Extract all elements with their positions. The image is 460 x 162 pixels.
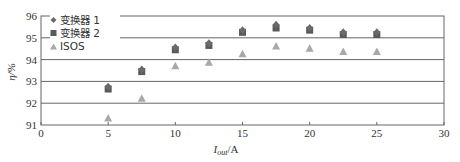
x-axis-label: Iout/A (213, 143, 239, 157)
x-tick-label: 25 (371, 127, 383, 139)
legend-square-icon (51, 30, 57, 36)
triangle-marker-icon (339, 47, 347, 55)
triangle-marker-icon (171, 62, 179, 70)
data-points (104, 21, 381, 122)
x-tick-label: 0 (38, 127, 44, 139)
legend-label-converter-2: 变换器 2 (60, 27, 100, 39)
triangle-marker-icon (138, 94, 146, 102)
x-tick-label: 20 (304, 127, 316, 139)
triangle-marker-icon (272, 42, 280, 50)
x-tick-label: 15 (237, 127, 249, 139)
triangle-marker-icon (373, 47, 381, 55)
triangle-marker-icon (306, 44, 314, 52)
efficiency-chart: 919293949596 051015202530 变换器 1 变换器 2 IS… (0, 0, 460, 162)
triangle-marker-icon (104, 114, 112, 122)
y-tick-label: 95 (26, 32, 38, 44)
y-tick-label: 93 (26, 75, 38, 87)
legend-label-converter-1: 变换器 1 (60, 14, 100, 26)
y-tick-label: 96 (26, 10, 38, 22)
x-tick-label: 5 (105, 127, 111, 139)
legend: 变换器 1 变换器 2 ISOS (50, 14, 120, 56)
x-tick-label: 10 (170, 127, 182, 139)
x-tick-label: 30 (439, 127, 451, 139)
y-tick-label: 92 (26, 97, 37, 109)
triangle-marker-icon (239, 50, 247, 58)
y-tick-label: 94 (26, 54, 38, 66)
y-tick-label: 91 (26, 119, 37, 131)
legend-label-isos: ISOS (60, 40, 85, 52)
y-axis-label: η/% (5, 63, 17, 81)
y-axis-ticks: 919293949596 (26, 10, 38, 131)
